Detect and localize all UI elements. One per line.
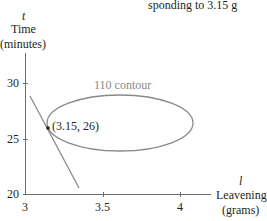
x-tick-label-3.5: 3.5 bbox=[95, 200, 110, 214]
y-tick-label-25: 25 bbox=[7, 132, 19, 146]
y-tick-label-20: 20 bbox=[7, 187, 19, 201]
y-tick-label-30: 30 bbox=[7, 76, 19, 90]
contour-label: 110 contour bbox=[94, 78, 151, 92]
point-label: (3.15, 26) bbox=[52, 119, 99, 133]
tangent-point bbox=[46, 126, 50, 130]
x-tick-label-3: 3 bbox=[22, 200, 28, 214]
x-axis-variable: l bbox=[239, 174, 242, 188]
x-axis-unit: (grams) bbox=[222, 203, 259, 217]
x-tick-label-4: 4 bbox=[177, 200, 183, 214]
x-axis-title: Leavening bbox=[216, 188, 267, 202]
